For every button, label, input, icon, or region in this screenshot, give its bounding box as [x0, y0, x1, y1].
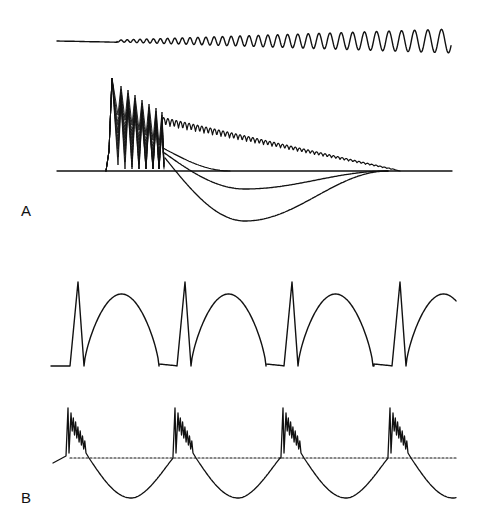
- panel-b-input-trace: [51, 282, 456, 366]
- figure: A B: [0, 0, 479, 528]
- panel-a-response-traces: [57, 78, 452, 221]
- figure-traces: [0, 0, 479, 528]
- panel-a-chirp-trace: [57, 29, 451, 53]
- panel-b-burst-trace: [53, 408, 456, 498]
- panel-label-a: A: [21, 203, 31, 218]
- panel-label-b: B: [21, 490, 31, 505]
